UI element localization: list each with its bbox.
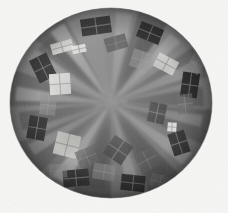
film-grain-overlay	[0, 0, 228, 213]
polar-warp-figure	[0, 0, 228, 213]
image-canvas	[0, 0, 228, 213]
